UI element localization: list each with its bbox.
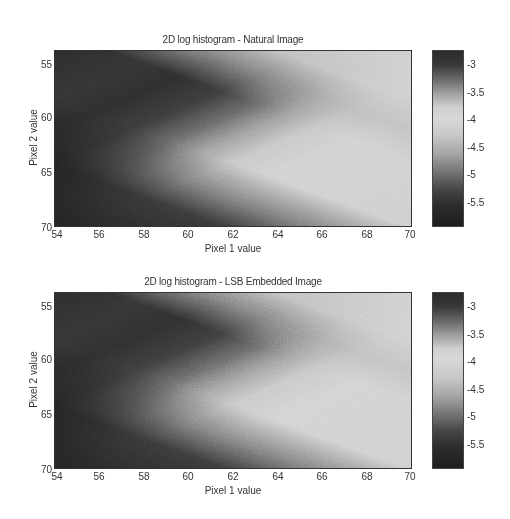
heatmap-plot-area	[54, 292, 412, 469]
colorbar	[432, 50, 464, 227]
chart-title: 2D log histogram - LSB Embedded Image	[54, 276, 412, 287]
colorbar-tick-label: -4	[467, 356, 476, 367]
y-axis-label: Pixel 2 value	[28, 330, 39, 430]
x-tick-label: 54	[51, 471, 62, 482]
colorbar-tick-label: -3.5	[467, 329, 484, 340]
heatmap-plot-area	[54, 50, 412, 227]
x-tick-label: 54	[51, 229, 62, 240]
x-tick-label: 58	[138, 471, 149, 482]
y-tick-label: 60	[41, 112, 52, 123]
x-tick-label: 68	[361, 229, 372, 240]
x-tick-label: 68	[361, 471, 372, 482]
heatmap-noise	[55, 293, 412, 469]
colorbar-tick-label: -3.5	[467, 87, 484, 98]
x-axis-label: Pixel 1 value	[54, 485, 412, 496]
y-tick-label: 55	[41, 59, 52, 70]
x-tick-label: 56	[93, 471, 104, 482]
x-tick-label: 62	[227, 229, 238, 240]
y-tick-label: 65	[41, 167, 52, 178]
x-tick-label: 66	[316, 471, 327, 482]
colorbar-tick-label: -4	[467, 114, 476, 125]
colorbar-tick-label: -3	[467, 59, 476, 70]
x-tick-label: 56	[93, 229, 104, 240]
colorbar-tick-label: -4.5	[467, 384, 484, 395]
colorbar-tick-label: -3	[467, 301, 476, 312]
colorbar-tick-label: -5.5	[467, 197, 484, 208]
chart-title: 2D log histogram - Natural Image	[54, 34, 412, 45]
y-tick-label: 60	[41, 354, 52, 365]
colorbar-tick-label: -5.5	[467, 439, 484, 450]
colorbar-tick-label: -5	[467, 169, 476, 180]
x-tick-label: 60	[182, 229, 193, 240]
y-tick-label: 65	[41, 409, 52, 420]
x-tick-label: 70	[404, 471, 415, 482]
natural-image-panel: 2D log histogram - Natural Image 55 60 6…	[0, 0, 510, 260]
x-tick-label: 66	[316, 229, 327, 240]
colorbar-tick-label: -5	[467, 411, 476, 422]
x-tick-label: 58	[138, 229, 149, 240]
colorbar-tick-label: -4.5	[467, 142, 484, 153]
x-tick-label: 60	[182, 471, 193, 482]
y-tick-label: 70	[41, 222, 52, 233]
x-tick-label: 64	[272, 471, 283, 482]
y-tick-label: 55	[41, 301, 52, 312]
heatmap-noise	[55, 51, 412, 227]
y-axis-label: Pixel 2 value	[28, 88, 39, 188]
x-tick-label: 64	[272, 229, 283, 240]
lsb-embedded-image-panel: 2D log histogram - LSB Embedded Image 55…	[0, 242, 510, 502]
y-tick-label: 70	[41, 464, 52, 475]
colorbar	[432, 292, 464, 469]
x-tick-label: 62	[227, 471, 238, 482]
x-tick-label: 70	[404, 229, 415, 240]
